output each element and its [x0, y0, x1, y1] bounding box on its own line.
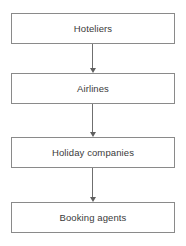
flow-node-label: Hoteliers — [74, 24, 112, 34]
flowchart-diagram: Hoteliers Airlines Holiday companies Boo… — [0, 0, 186, 246]
connector-line-2 — [92, 104, 93, 134]
flow-node-label: Holiday companies — [52, 148, 134, 158]
flow-node-holiday-companies[interactable]: Holiday companies — [11, 137, 175, 168]
flow-node-label: Booking agents — [60, 213, 127, 223]
flow-node-airlines[interactable]: Airlines — [11, 73, 175, 104]
flow-node-hoteliers[interactable]: Hoteliers — [11, 13, 175, 44]
connector-line-1 — [92, 44, 93, 70]
connector-line-3 — [92, 168, 93, 199]
flow-node-booking-agents[interactable]: Booking agents — [11, 202, 175, 233]
flow-node-label: Airlines — [77, 84, 109, 94]
